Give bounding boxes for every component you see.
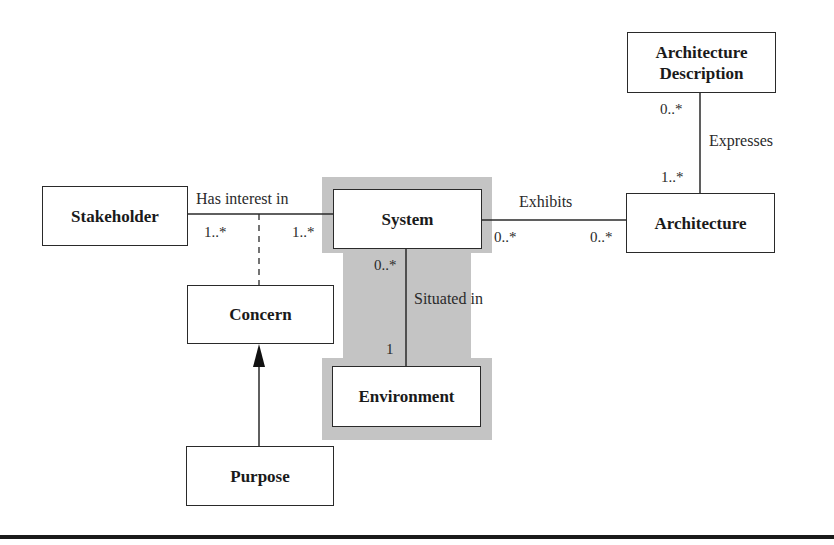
mult-system-side-exhibits: 0..* xyxy=(494,229,517,246)
label-exhibits: Exhibits xyxy=(519,193,572,211)
class-environment-label: Environment xyxy=(358,386,454,407)
label-expresses: Expresses xyxy=(709,132,773,150)
class-system-label: System xyxy=(382,209,434,230)
mult-architecture-side-exhibits: 0..* xyxy=(590,229,613,246)
mult-system-side-situated: 0..* xyxy=(374,257,397,274)
class-architecture-description-line1: Architecture xyxy=(656,42,748,63)
mult-architecture-side-expresses: 1..* xyxy=(661,169,684,186)
mult-ad-side-expresses: 0..* xyxy=(660,101,683,118)
arrowhead-icon xyxy=(253,344,265,367)
label-has-interest-in: Has interest in xyxy=(196,190,288,208)
class-architecture: Architecture xyxy=(626,193,775,253)
bottom-rule-divider xyxy=(0,535,834,539)
class-architecture-label: Architecture xyxy=(655,213,747,234)
class-concern-label: Concern xyxy=(229,304,291,325)
class-environment: Environment xyxy=(332,366,481,427)
class-concern: Concern xyxy=(187,285,334,344)
class-purpose-label: Purpose xyxy=(230,466,290,487)
class-architecture-description: Architecture Description xyxy=(627,32,776,93)
mult-environment-side-situated: 1 xyxy=(386,341,394,358)
mult-system-side-interest: 1..* xyxy=(292,224,315,241)
label-situated-in: Situated in xyxy=(414,290,483,308)
class-purpose: Purpose xyxy=(186,446,334,506)
class-stakeholder: Stakeholder xyxy=(42,186,188,246)
mult-stakeholder-side: 1..* xyxy=(204,224,227,241)
class-stakeholder-label: Stakeholder xyxy=(71,206,159,227)
uml-diagram: Stakeholder System Architecture Architec… xyxy=(0,0,834,545)
class-architecture-description-line2: Description xyxy=(659,63,743,84)
class-system: System xyxy=(333,189,482,249)
